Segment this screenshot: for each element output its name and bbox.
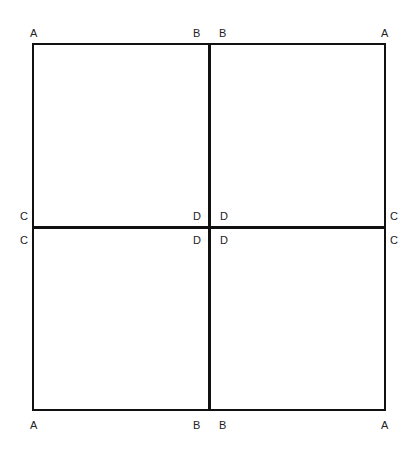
- label-top-mid-left: B: [193, 28, 200, 39]
- label-center-lr: D: [220, 235, 228, 246]
- label-mid-right-upper: C: [390, 211, 398, 222]
- label-bottom-left: A: [30, 420, 37, 431]
- label-mid-left-upper: C: [20, 211, 28, 222]
- label-bottom-mid-right: B: [219, 420, 226, 431]
- label-top-mid-right: B: [219, 28, 226, 39]
- label-center-ul: D: [193, 211, 201, 222]
- label-bottom-right: A: [381, 420, 388, 431]
- label-mid-right-lower: C: [390, 235, 398, 246]
- horizontal-divider: [33, 226, 386, 229]
- label-top-right: A: [381, 28, 388, 39]
- label-center-ur: D: [220, 211, 228, 222]
- label-top-left: A: [30, 28, 37, 39]
- label-mid-left-lower: C: [20, 235, 28, 246]
- label-bottom-mid-left: B: [193, 420, 200, 431]
- label-center-ll: D: [193, 235, 201, 246]
